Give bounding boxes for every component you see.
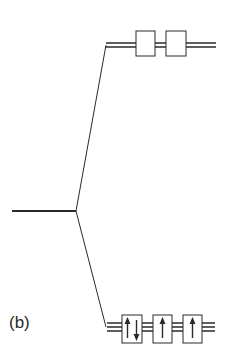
upper-level-lines — [106, 43, 216, 47]
upper-orbital-box-1 — [136, 31, 155, 56]
lower-orbital-box-3 — [183, 315, 202, 343]
lower-orbital-box-2 — [153, 315, 172, 343]
upper-orbital-box-2 — [166, 31, 186, 56]
energy-level-diagram — [0, 0, 233, 358]
lower-split-connector — [76, 211, 106, 327]
lower-orbital-box-1 — [122, 315, 142, 343]
upper-split-connector — [76, 45, 106, 211]
panel-label: (b) — [9, 313, 30, 333]
